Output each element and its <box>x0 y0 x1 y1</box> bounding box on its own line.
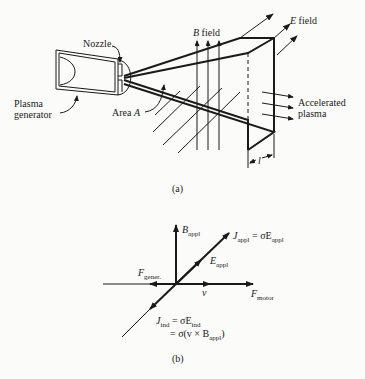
j-ind-label: Jind = σEind <box>156 315 201 329</box>
plasma-generator-label-2: generator <box>14 109 52 120</box>
f-gener-label: Fgener. <box>137 267 161 281</box>
v-label: v <box>202 287 207 298</box>
accelerated-plasma-arrows <box>262 92 293 119</box>
j-ind-arrow <box>150 284 176 309</box>
plasma-generator-label: Plasma <box>14 98 43 109</box>
figure-a: Nozzle Plasma generator Area A B field E… <box>14 14 346 195</box>
channel-walls <box>124 38 274 150</box>
length-label: l <box>258 155 261 166</box>
mhd-thruster-diagram: Nozzle Plasma generator Area A B field E… <box>0 0 365 379</box>
j-appl-label: Jappl = σEappl <box>233 230 284 244</box>
nozzle-leader <box>112 46 120 62</box>
caption-a: (a) <box>172 183 183 195</box>
figure-b: Bappl Jappl = σEappl Eappl Fgener. v Fmo… <box>103 224 284 365</box>
caption-b: (b) <box>172 353 184 365</box>
b-appl-label: Bappl <box>182 224 200 238</box>
accelerated-plasma-label-2: plasma <box>298 108 327 119</box>
b-field-label: B field <box>193 27 220 38</box>
nozzle-label: Nozzle <box>83 38 112 49</box>
accelerated-plasma-label: Accelerated <box>298 97 346 108</box>
e-field-label: E field <box>289 15 317 26</box>
area-label: Area A <box>112 107 141 118</box>
generator-leader <box>60 96 77 113</box>
b-field-arrows <box>197 41 219 150</box>
e-appl-label: Eappl <box>209 255 228 269</box>
e-field-arrows <box>240 14 297 55</box>
length-dimension <box>248 134 274 168</box>
diagonal-extension <box>122 309 150 337</box>
e-appl-arrow <box>176 260 201 284</box>
f-motor-label: Fmotor <box>250 288 274 302</box>
j-ind-eq2-label: = σ(v × Bappl) <box>170 328 225 342</box>
